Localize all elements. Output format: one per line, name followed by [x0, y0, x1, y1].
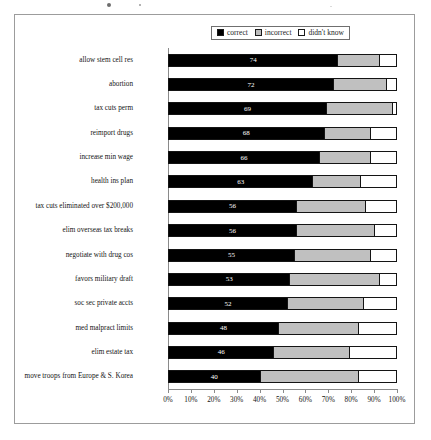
legend-label-didnt-know: didn't know [308, 28, 343, 37]
category-label: health ins plan [0, 177, 133, 186]
bar-segment-incorrect [260, 370, 358, 383]
scan-artifact [107, 3, 111, 7]
legend-label-correct: correct [227, 28, 248, 37]
bar-segment-correct: 68 [168, 127, 324, 140]
axis-tick-mark [351, 389, 352, 393]
category-label: favors military draft [0, 275, 133, 284]
axis-tick-mark [374, 389, 375, 393]
bar-segment-didn-t-know [358, 322, 397, 335]
bar-segment-didn-t-know [365, 200, 397, 213]
bar-segment-didn-t-know [363, 297, 397, 310]
category-label: med malpract limits [0, 324, 133, 333]
bar-segment-correct: 52 [168, 297, 287, 310]
category-label: soc sec private accts [0, 299, 133, 308]
bar-segment-didn-t-know [370, 127, 397, 140]
bar-segment-correct: 69 [168, 102, 326, 115]
bar-segment-correct: 40 [168, 370, 260, 383]
bar-row: 74 [168, 54, 397, 67]
bar-segment-correct: 72 [168, 78, 333, 91]
bar-segment-correct: 48 [168, 322, 278, 335]
bar-row: 72 [168, 78, 397, 91]
legend-entry-didnt-know: didn't know [298, 28, 343, 37]
axis-tick-mark [328, 389, 329, 393]
bar-row: 56 [168, 224, 397, 237]
bar-value-label: 69 [169, 105, 326, 113]
bar-row: 56 [168, 200, 397, 213]
bar-segment-incorrect [319, 151, 369, 164]
bar-segment-didn-t-know [374, 224, 397, 237]
bar-row: 69 [168, 102, 397, 115]
category-label: elim estate tax [0, 348, 133, 357]
category-label: abortion [0, 80, 133, 89]
bar-segment-incorrect [333, 78, 386, 91]
bar-value-label: 46 [169, 348, 273, 356]
axis-tick-mark [191, 389, 192, 393]
bar-segment-didn-t-know [360, 175, 397, 188]
bar-row: 63 [168, 175, 397, 188]
axis-tick-mark [168, 389, 169, 393]
bar-row: 66 [168, 151, 397, 164]
scan-artifact [139, 4, 141, 6]
category-label: tax cuts perm [0, 104, 133, 113]
bar-segment-incorrect [287, 297, 363, 310]
bar-row: 53 [168, 273, 397, 286]
bar-segment-incorrect [326, 102, 392, 115]
bar-segment-incorrect [337, 54, 378, 67]
legend-entry-correct: correct [217, 28, 248, 37]
axis-tick-mark [260, 389, 261, 393]
bar-segment-incorrect [312, 175, 360, 188]
bar-value-label: 48 [169, 324, 278, 332]
legend-swatch-didnt-know-icon [298, 29, 305, 36]
bar-segment-correct: 56 [168, 200, 296, 213]
bar-segment-didn-t-know [349, 346, 397, 359]
bar-value-label: 74 [169, 56, 337, 64]
bar-segment-correct: 56 [168, 224, 296, 237]
bar-row: 55 [168, 249, 397, 262]
bar-segment-incorrect [273, 346, 349, 359]
bar-row: 52 [168, 297, 397, 310]
bar-segment-correct: 53 [168, 273, 289, 286]
category-label: move troops from Europe & S. Korea [0, 372, 133, 381]
category-label: reimport drugs [0, 129, 133, 138]
bar-segment-incorrect [324, 127, 370, 140]
bar-row: 46 [168, 346, 397, 359]
legend-entry-incorrect: incorrect [255, 28, 292, 37]
scan-artifact [330, 6, 332, 7]
bar-segment-incorrect [289, 273, 378, 286]
bar-value-label: 53 [169, 275, 289, 283]
bar-segment-correct: 63 [168, 175, 312, 188]
category-label: negotiate with drug cos [0, 251, 133, 260]
bar-segment-incorrect [294, 249, 370, 262]
bar-row: 40 [168, 370, 397, 383]
bar-value-label: 63 [169, 178, 312, 186]
bar-row: 68 [168, 127, 397, 140]
category-label: elim overseas tax breaks [0, 226, 133, 235]
category-label: increase min wage [0, 153, 133, 162]
bar-segment-didn-t-know [386, 78, 397, 91]
bar-segment-correct: 46 [168, 346, 273, 359]
chart-legend: correct incorrect didn't know [211, 26, 350, 40]
bar-segment-incorrect [296, 224, 374, 237]
legend-label-incorrect: incorrect [265, 28, 292, 37]
bar-value-label: 56 [169, 227, 296, 235]
axis-tick-mark [283, 389, 284, 393]
bar-segment-didn-t-know [379, 273, 397, 286]
bar-segment-didn-t-know [379, 54, 397, 67]
bar-value-label: 68 [169, 129, 324, 137]
bar-segment-incorrect [278, 322, 358, 335]
bar-row: 48 [168, 322, 397, 335]
axis-tick-mark [237, 389, 238, 393]
legend-swatch-incorrect-icon [255, 29, 262, 36]
bar-segment-didn-t-know [370, 249, 397, 262]
bar-segment-incorrect [296, 200, 365, 213]
legend-swatch-correct-icon [217, 29, 224, 36]
category-label: tax cuts eliminated over $200,000 [0, 202, 133, 211]
plot-area: 7472696866635656555352484640 [168, 48, 397, 389]
bar-value-label: 66 [169, 154, 319, 162]
bar-segment-correct: 66 [168, 151, 319, 164]
bar-value-label: 40 [169, 373, 260, 381]
bar-value-label: 52 [169, 300, 287, 308]
category-label: allow stem cell res [0, 56, 133, 65]
bar-segment-correct: 55 [168, 249, 294, 262]
chart-frame: correct incorrect didn't know allow stem… [14, 14, 415, 424]
